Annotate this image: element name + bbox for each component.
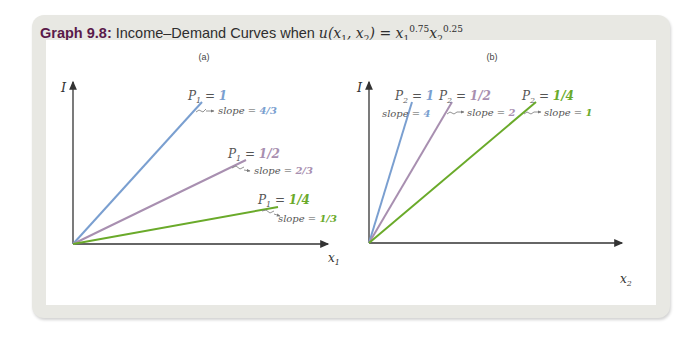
label-p2-quarter: P2 = 1/4: [521, 89, 574, 105]
slope-label-p1-half: slope = 2/3: [254, 165, 313, 176]
slope-label-p1-1: slope = 4/3: [218, 105, 277, 116]
slope-bracket-p2-quarter: [524, 112, 534, 114]
line-p1-1: [73, 102, 202, 244]
line-p2-half: [369, 102, 452, 243]
panel-label-a: (a): [199, 52, 210, 62]
label-p1-1: P1 = 1: [187, 89, 227, 105]
slope-bracket-p1-quarter: [262, 210, 274, 213]
y-axis-label-a: I: [60, 80, 67, 95]
line-p1-half: [73, 160, 246, 244]
line-p2-1: [369, 102, 412, 243]
chart-b: (b) I x2 P2 = 1 slope = 4 P2 = 1/2 slope…: [356, 52, 632, 288]
income-demand-charts: (a) I x1 P1 = 1 slope = 4/3 P1 = 1/2 slo…: [0, 0, 694, 338]
y-axis-label-b: I: [356, 80, 363, 95]
slope-bracket-p1-1: [196, 109, 206, 112]
slope-label-p2-1: slope = 4: [382, 108, 430, 119]
slope-bracket-p2-half: [447, 112, 457, 114]
x-axis-label-a: x1: [328, 251, 340, 267]
x-axis-label-b: x2: [620, 272, 632, 288]
chart-a: (a) I x1 P1 = 1 slope = 4/3 P1 = 1/2 slo…: [60, 52, 340, 267]
label-p1-quarter: P1 = 1/4: [257, 193, 310, 209]
label-p2-1: P2 = 1: [394, 89, 434, 105]
slope-label-p2-quarter: slope = 1: [544, 107, 592, 118]
line-p2-quarter: [369, 102, 536, 243]
slope-label-p1-quarter: slope = 1/3: [278, 213, 337, 224]
label-p1-half: P1 = 1/2: [227, 147, 280, 163]
label-p2-half: P2 = 1/2: [438, 89, 491, 105]
line-p1-quarter: [73, 207, 278, 244]
panel-label-b: (b): [487, 52, 498, 62]
slope-label-p2-half: slope = 2: [467, 107, 515, 118]
